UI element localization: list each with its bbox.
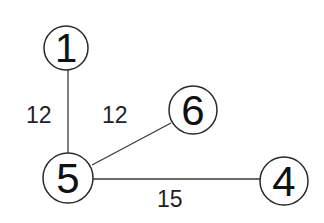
edge-5-6-weight: 12 [102,104,128,127]
edge-5-6 [92,123,171,165]
node-4-label: 4 [264,161,304,203]
node-6-label: 6 [173,90,213,132]
node-1-label: 1 [46,28,86,68]
node-5-label: 5 [48,158,88,200]
edge-1-5-weight: 12 [26,104,52,127]
edge-5-4-weight: 15 [157,188,183,211]
graph-diagram: 1 5 6 4 12 12 15 [0,0,324,223]
